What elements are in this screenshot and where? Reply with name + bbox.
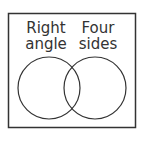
label-line: Right <box>16 20 76 36</box>
set-label-four-sides: Four sides <box>68 20 128 52</box>
set-circle-right-angle <box>18 57 80 119</box>
set-circle-four-sides <box>64 57 126 119</box>
label-line: angle <box>16 36 76 52</box>
label-line: Four <box>68 20 128 36</box>
label-line: sides <box>68 36 128 52</box>
set-label-right-angle: Right angle <box>16 20 76 52</box>
